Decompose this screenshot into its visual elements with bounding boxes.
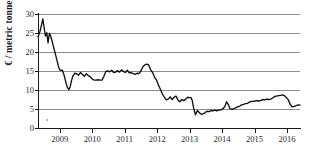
series-layer	[0, 0, 309, 153]
carbon-price-chart: € / metric tonne 051015202530 2009201020…	[0, 0, 309, 153]
price-line	[38, 19, 300, 115]
